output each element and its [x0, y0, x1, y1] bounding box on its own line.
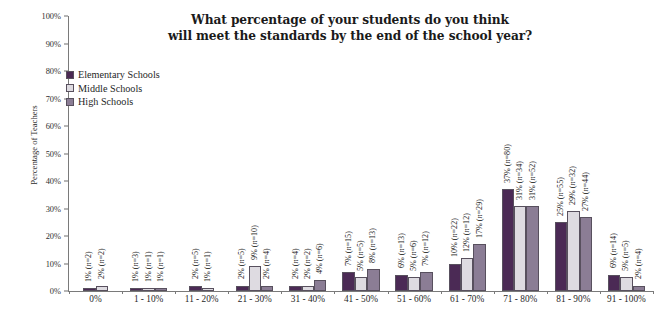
- bar-value-label: 2% (n=5): [192, 249, 200, 280]
- bar-rect: [514, 206, 526, 291]
- bar-rect: [96, 286, 108, 292]
- bar-value-label: 1% (n=1): [145, 251, 153, 282]
- bar-high-schools[interactable]: 8% (n=13): [367, 16, 379, 291]
- y-tick-label-70: 70%: [21, 94, 61, 103]
- x-tick-mark: [653, 291, 654, 294]
- bar-rect: [420, 272, 432, 291]
- bar-elementary-schools[interactable]: 1% (n=3): [130, 16, 142, 291]
- bar-group: 10% (n=22)12% (n=12)17% (n=29): [441, 16, 494, 291]
- bar-middle-schools[interactable]: 2% (n=2): [96, 16, 108, 291]
- bar-rect: [202, 288, 214, 291]
- bar-elementary-schools[interactable]: 1% (n=2): [83, 16, 95, 291]
- bar-rect: [236, 286, 248, 292]
- x-tick-mark: [334, 291, 335, 294]
- bar-group-inner: 6% (n=13)5% (n=6)7% (n=12): [388, 16, 441, 291]
- x-tick-mark: [547, 291, 548, 294]
- y-tick-label-60: 60%: [21, 122, 61, 131]
- y-tick-label-10: 10%: [21, 259, 61, 268]
- bar-group-inner: 6% (n=14)5% (n=5)2% (n=4): [600, 16, 653, 291]
- bar-high-schools[interactable]: 17% (n=29): [473, 16, 485, 291]
- bar-elementary-schools[interactable]: 2% (n=4): [289, 16, 301, 291]
- bar-value-label: 17% (n=29): [476, 199, 484, 238]
- bar-middle-schools[interactable]: 9% (n=10): [249, 16, 261, 291]
- bar-rect: [502, 189, 514, 291]
- x-tick-label: 51 - 60%: [388, 294, 441, 304]
- bar-rect: [289, 286, 301, 292]
- bar-high-schools[interactable]: 27% (n=44): [580, 16, 592, 291]
- bar-rect: [580, 217, 592, 291]
- bar-value-label: 7% (n=15): [345, 231, 353, 266]
- bar-middle-schools[interactable]: 5% (n=5): [355, 16, 367, 291]
- x-tick-label: 41 - 50%: [334, 294, 387, 304]
- y-tick-label-80: 80%: [21, 67, 61, 76]
- bar-value-label: 2% (n=2): [304, 249, 312, 280]
- x-tick-mark: [175, 291, 176, 294]
- bar-value-label: 1% (n=3): [133, 251, 141, 282]
- bar-middle-schools[interactable]: 5% (n=5): [620, 16, 632, 291]
- x-axis-line: [68, 291, 653, 292]
- bar-high-schools[interactable]: 1% (n=1): [155, 16, 167, 291]
- bar-high-schools[interactable]: 31% (n=52): [526, 16, 538, 291]
- bar-group-inner: 2% (n=5)1% (n=1): [175, 16, 228, 291]
- bar-group: 37% (n=80)31% (n=34)31% (n=52): [494, 16, 547, 291]
- bar-high-schools[interactable]: 2% (n=4): [633, 16, 645, 291]
- x-tick-label: 81 - 90%: [547, 294, 600, 304]
- bar-middle-schools[interactable]: 2% (n=2): [302, 16, 314, 291]
- bar-rect: [249, 266, 261, 291]
- bar-middle-schools[interactable]: 31% (n=34): [514, 16, 526, 291]
- bar-rect: [526, 206, 538, 291]
- bar-high-schools[interactable]: 7% (n=12): [420, 16, 432, 291]
- bar-elementary-schools[interactable]: 2% (n=5): [236, 16, 248, 291]
- bar-group: 2% (n=5)9% (n=10)2% (n=4): [228, 16, 281, 291]
- bar-middle-schools[interactable]: 1% (n=1): [142, 16, 154, 291]
- bar-elementary-schools[interactable]: 6% (n=14): [608, 16, 620, 291]
- y-tick-label-90: 90%: [21, 39, 61, 48]
- x-tick-mark: [122, 291, 123, 294]
- bar-elementary-schools[interactable]: 10% (n=22): [449, 16, 461, 291]
- bar-rect: [620, 277, 632, 291]
- bar-middle-schools[interactable]: 12% (n=12): [461, 16, 473, 291]
- bar-value-label: 10% (n=22): [451, 219, 459, 258]
- bar-group: 2% (n=5)1% (n=1): [175, 16, 228, 291]
- bar-value-label: 2% (n=5): [239, 249, 247, 280]
- x-tick-label: 31 - 40%: [281, 294, 334, 304]
- bar-group: 6% (n=13)5% (n=6)7% (n=12): [388, 16, 441, 291]
- x-tick-label: 21 - 30%: [228, 294, 281, 304]
- bar-middle-schools[interactable]: 1% (n=1): [202, 16, 214, 291]
- y-tick-label-0: 0%: [21, 287, 61, 296]
- bar-elementary-schools[interactable]: 7% (n=15): [342, 16, 354, 291]
- bar-group: 6% (n=14)5% (n=5)2% (n=4): [600, 16, 653, 291]
- plot-area: 1% (n=2)2% (n=2)1% (n=3)1% (n=1)1% (n=1)…: [69, 16, 653, 291]
- bar-elementary-schools[interactable]: 6% (n=13): [395, 16, 407, 291]
- bar-group: 2% (n=4)2% (n=2)4% (n=6): [281, 16, 334, 291]
- bar-group-inner: 2% (n=5)9% (n=10)2% (n=4): [228, 16, 281, 291]
- bar-rect: [142, 288, 154, 291]
- x-tick-mark: [69, 291, 70, 294]
- bar-value-label: 1% (n=2): [86, 251, 94, 282]
- bar-group: 25% (n=55)29% (n=32)27% (n=44): [547, 16, 600, 291]
- bar-rect: [261, 286, 273, 292]
- bar-high-schools[interactable]: 2% (n=4): [261, 16, 273, 291]
- x-tick-label: 0%: [69, 294, 122, 304]
- x-tick-label: 1 - 10%: [122, 294, 175, 304]
- bar-high-schools[interactable]: 4% (n=6): [314, 16, 326, 291]
- bar-value-label: 5% (n=5): [623, 240, 631, 271]
- bar-elementary-schools[interactable]: 2% (n=5): [189, 16, 201, 291]
- bar-elementary-schools[interactable]: 25% (n=55): [555, 16, 567, 291]
- bar-rect: [130, 288, 142, 291]
- bar-value-label: 2% (n=4): [292, 249, 300, 280]
- bar-value-label: 37% (n=80): [504, 144, 512, 183]
- y-tick-label-40: 40%: [21, 177, 61, 186]
- bar-middle-schools[interactable]: 29% (n=32): [567, 16, 579, 291]
- bar-group: 1% (n=2)2% (n=2): [69, 16, 122, 291]
- bar-group-inner: 2% (n=4)2% (n=2)4% (n=6): [281, 16, 334, 291]
- bar-elementary-schools[interactable]: 37% (n=80): [502, 16, 514, 291]
- bar-rect: [342, 272, 354, 291]
- bar-value-label: 4% (n=6): [317, 243, 325, 274]
- bar-value-label: 9% (n=10): [251, 225, 259, 260]
- bar-group-inner: 25% (n=55)29% (n=32)27% (n=44): [547, 16, 600, 291]
- bar-value-label: 31% (n=52): [529, 161, 537, 200]
- x-tick-mark: [228, 291, 229, 294]
- bar-value-label: 25% (n=55): [557, 177, 565, 216]
- bar-middle-schools[interactable]: 5% (n=6): [408, 16, 420, 291]
